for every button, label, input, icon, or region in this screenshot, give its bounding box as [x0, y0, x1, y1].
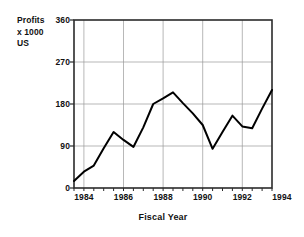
- x-axis-title: Fiscal Year: [0, 212, 304, 222]
- gridlines: [74, 20, 272, 188]
- plot-area: [0, 0, 304, 237]
- line-chart: Profits x 1000 US 360 270 180 90 0 1984 …: [0, 0, 304, 237]
